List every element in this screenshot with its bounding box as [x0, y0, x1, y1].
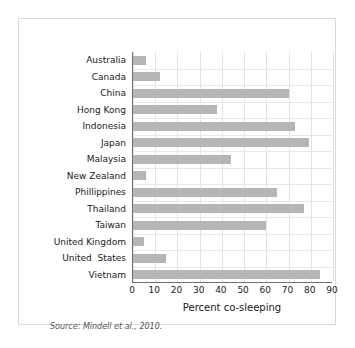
bar-row	[133, 135, 332, 152]
bar-row	[133, 267, 332, 284]
bar	[133, 89, 289, 98]
bar-row	[133, 118, 332, 135]
bar	[133, 155, 231, 164]
bar	[133, 237, 144, 246]
bar	[133, 171, 146, 180]
x-tick-label: 30	[193, 285, 204, 296]
category-label: Indonesia	[82, 121, 126, 131]
bar	[133, 270, 320, 279]
category-label: Thailand	[87, 204, 126, 214]
bar-row	[133, 52, 332, 69]
bar-row	[133, 234, 332, 251]
bar	[133, 138, 309, 147]
category-label: Canada	[92, 72, 126, 82]
plot-area	[132, 52, 332, 283]
bar-row	[133, 168, 332, 185]
source-note: Source: Mindell et al., 2010.	[50, 322, 162, 331]
x-tick-label: 0	[129, 285, 135, 296]
bar-row	[133, 151, 332, 168]
x-axis-tick-labels: 0102030405060708090	[132, 285, 332, 299]
bar	[133, 105, 217, 114]
bar-row	[133, 184, 332, 201]
bar	[133, 56, 146, 65]
gridline-vertical	[333, 52, 334, 282]
x-tick-label: 40	[215, 285, 226, 296]
category-label: Australia	[86, 55, 126, 65]
bar	[133, 122, 295, 131]
category-label: Malaysia	[87, 154, 126, 164]
category-label: New Zealand	[67, 171, 126, 181]
bar-row	[133, 250, 332, 267]
x-tick-label: 60	[260, 285, 271, 296]
category-axis-labels: AustraliaCanadaChinaHong KongIndonesiaJa…	[37, 52, 130, 283]
x-tick-label: 90	[326, 285, 337, 296]
x-tick-label: 80	[304, 285, 315, 296]
figure-frame: AustraliaCanadaChinaHong KongIndonesiaJa…	[18, 18, 336, 325]
category-label: China	[100, 88, 126, 98]
category-label: Vietnam	[88, 270, 126, 280]
bar-row	[133, 69, 332, 86]
bar	[133, 221, 266, 230]
x-tick-label: 70	[282, 285, 293, 296]
x-tick-label: 50	[237, 285, 248, 296]
x-tick-label: 10	[148, 285, 159, 296]
category-label: Phillippines	[75, 187, 126, 197]
bar	[133, 254, 166, 263]
x-tick-label: 20	[171, 285, 182, 296]
bar-row	[133, 217, 332, 234]
bar	[133, 204, 304, 213]
bar-series	[133, 52, 332, 282]
category-label: Japan	[101, 138, 126, 148]
category-label: Hong Kong	[77, 105, 126, 115]
figure: AustraliaCanadaChinaHong KongIndonesiaJa…	[0, 0, 355, 348]
bar	[133, 72, 160, 81]
category-label: United Kingdom	[54, 237, 126, 247]
bar	[133, 188, 277, 197]
x-axis-title: Percent co-sleeping	[132, 302, 332, 313]
bar-row	[133, 102, 332, 119]
bar-row	[133, 201, 332, 218]
category-label: United States	[62, 253, 126, 263]
bar-row	[133, 85, 332, 102]
category-label: Taiwan	[95, 220, 126, 230]
